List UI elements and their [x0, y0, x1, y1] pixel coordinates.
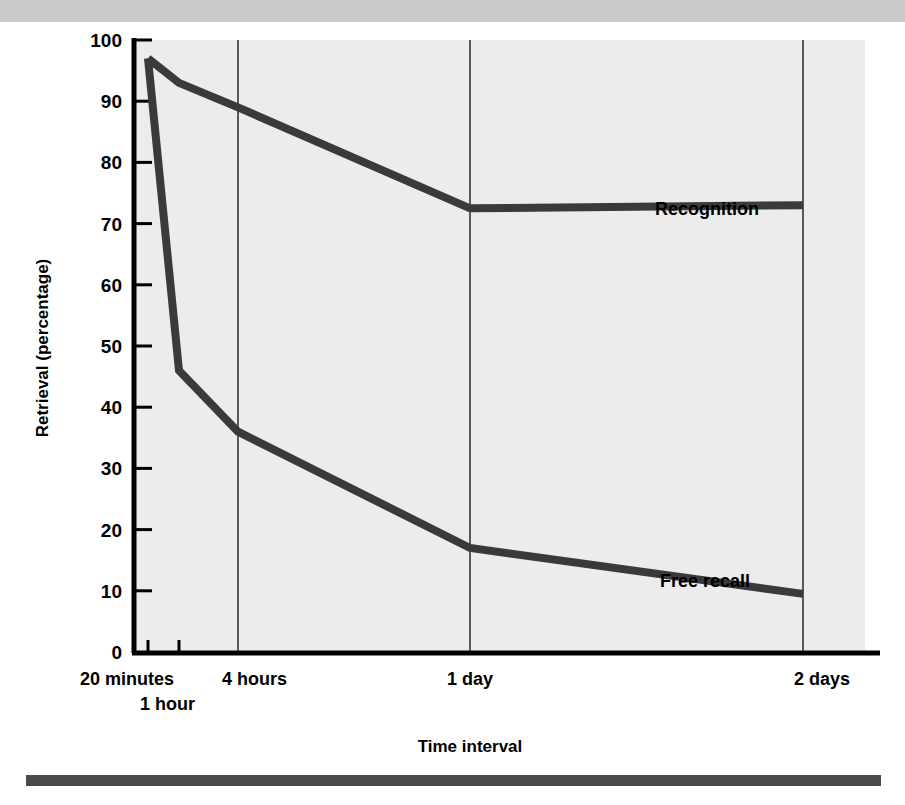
x-label-4-hours: 4 hours — [222, 669, 287, 689]
y-tick-label-50: 50 — [101, 336, 122, 357]
x-label-20-minutes: 20 minutes — [80, 669, 174, 689]
x-label-1-day: 1 day — [447, 669, 493, 689]
series-label-recognition: Recognition — [655, 199, 759, 219]
y-tick-label-90: 90 — [101, 91, 122, 112]
series-label-free-recall: Free recall — [660, 571, 750, 591]
y-tick-label-60: 60 — [101, 275, 122, 296]
y-tick-label-20: 20 — [101, 520, 122, 541]
y-axis-title: Retrieval (percentage) — [33, 259, 52, 438]
y-tick-label-70: 70 — [101, 214, 122, 235]
figure-container: 0102030405060708090100 Recognition Free … — [0, 0, 905, 805]
x-axis-title: Time interval — [418, 737, 523, 756]
x-label-1-hour: 1 hour — [140, 694, 195, 714]
x-label-2-days: 2 days — [794, 669, 850, 689]
y-tick-label-80: 80 — [101, 152, 122, 173]
plot-area-background — [134, 40, 865, 652]
y-tick-label-40: 40 — [101, 397, 122, 418]
line-chart: 0102030405060708090100 Recognition Free … — [0, 0, 905, 805]
y-tick-label-10: 10 — [101, 581, 122, 602]
y-tick-label-30: 30 — [101, 458, 122, 479]
y-tick-label-100: 100 — [90, 30, 122, 51]
chart-plot-wrapper: 0102030405060708090100 Recognition Free … — [0, 0, 905, 805]
bottom-decorative-rule — [26, 775, 881, 786]
y-tick-label-0: 0 — [111, 642, 122, 663]
